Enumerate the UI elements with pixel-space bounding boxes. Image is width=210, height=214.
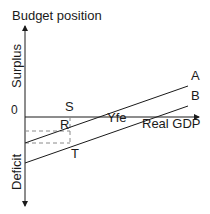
deficit-label: Deficit (9, 153, 24, 190)
point-S-label: S (65, 99, 74, 114)
point-R-label: R (60, 117, 69, 132)
line-A-label: A (191, 68, 200, 83)
y-axis-title: Budget position (12, 8, 102, 23)
line-B-label: B (191, 88, 200, 103)
surplus-label: Surplus (9, 43, 24, 88)
point-Yfe-label: Yfe (107, 110, 127, 125)
x-axis-title: Real GDP (142, 116, 201, 131)
budget-position-diagram: Budget position Real GDP Surplus Deficit… (0, 0, 210, 214)
origin-label: 0 (11, 103, 18, 117)
point-T-label: T (71, 146, 79, 161)
